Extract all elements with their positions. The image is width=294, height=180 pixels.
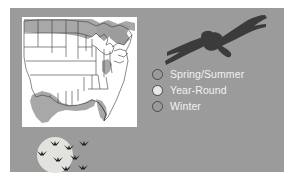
swatch-winter: [152, 101, 163, 112]
legend-label-winter: Winter: [170, 100, 201, 112]
range-map-card[interactable]: [22, 17, 137, 127]
soaring-raptor-silhouette: [162, 11, 270, 69]
swatch-year-round: [152, 85, 163, 96]
legend-label-spring-summer: Spring/Summer: [170, 68, 244, 80]
raptor-graphic: [162, 11, 270, 69]
legend-label-year-round: Year-Round: [170, 84, 227, 96]
legend-item-winter[interactable]: Winter: [152, 98, 284, 114]
united-states-map-graphic: [22, 17, 137, 127]
legend-item-spring-summer[interactable]: Spring/Summer: [152, 66, 284, 82]
geese-flying-past-moon: [24, 132, 110, 178]
swatch-spring-summer: [152, 69, 163, 80]
poster-canvas: Spring/Summer Year-Round Winter: [0, 0, 294, 180]
legend-item-year-round[interactable]: Year-Round: [152, 82, 284, 98]
range-legend: Spring/Summer Year-Round Winter: [152, 66, 284, 114]
migration-graphic: [24, 132, 110, 178]
poster-panel: Spring/Summer Year-Round Winter: [10, 8, 284, 172]
